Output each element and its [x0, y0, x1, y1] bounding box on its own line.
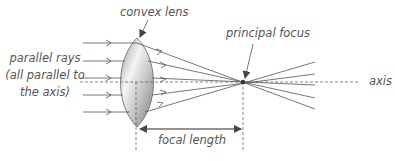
principal-focus-point: [241, 80, 245, 84]
parallel-rays-label: parallel rays (all parallel to the axis): [2, 50, 88, 101]
focus-pointer: [245, 44, 253, 78]
refracted-rays: [137, 43, 315, 112]
convex-lens-label: convex lens: [120, 7, 189, 19]
lens-pointer: [140, 20, 148, 37]
principal-focus-label: principal focus: [226, 28, 310, 40]
focal-length-label: focal length: [158, 135, 226, 147]
parallel-rays-label-line3: the axis): [2, 84, 88, 101]
parallel-rays-label-line2: (all parallel to: [2, 67, 88, 84]
axis-label: axis: [369, 76, 392, 88]
parallel-rays-label-line1: parallel rays: [2, 50, 88, 67]
convex-lens: [121, 38, 154, 127]
